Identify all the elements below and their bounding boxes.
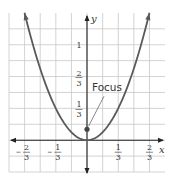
y-axis-label: y xyxy=(90,13,97,24)
x-axis-arrow-left-icon xyxy=(10,138,16,143)
curve-arrow-icon xyxy=(145,13,150,20)
x-axis-arrow-right-icon xyxy=(158,138,164,143)
y-tick-label: 1 xyxy=(76,41,81,50)
curve-arrow-icon xyxy=(24,13,29,20)
focus-label: Focus xyxy=(92,81,122,93)
y-axis-arrow-up-icon xyxy=(85,15,90,21)
tick-denominator: 3 xyxy=(55,153,60,162)
x-tick-label: 23 xyxy=(17,143,31,162)
tick-numerator: 1 xyxy=(55,143,60,152)
axes: xy xyxy=(10,13,165,174)
tick-numerator: 2 xyxy=(24,143,29,152)
tick-denominator: 3 xyxy=(147,153,152,162)
x-tick-label: 13 xyxy=(115,143,122,162)
focus-point xyxy=(84,127,89,132)
tick-numerator: 1 xyxy=(116,143,121,152)
x-tick-label: 13 xyxy=(48,143,62,162)
tick-numerator: 2 xyxy=(147,143,152,152)
tick-denominator: 3 xyxy=(116,153,121,162)
focus-leader-line xyxy=(89,96,105,126)
tick-numerator: 1 xyxy=(76,100,81,109)
y-axis-arrow-down-icon xyxy=(85,168,90,174)
tick-denominator: 3 xyxy=(76,110,81,119)
y-tick-label: 13 xyxy=(76,100,83,119)
x-tick-label: 23 xyxy=(146,143,153,162)
tick-denominator: 3 xyxy=(24,153,29,162)
y-tick-label: 23 xyxy=(76,69,83,88)
x-axis-label: x xyxy=(159,144,165,155)
parabola-chart: xy 2313132313231 Focus xyxy=(0,0,174,184)
tick-denominator: 3 xyxy=(76,79,81,88)
tick-numerator: 2 xyxy=(76,69,81,78)
